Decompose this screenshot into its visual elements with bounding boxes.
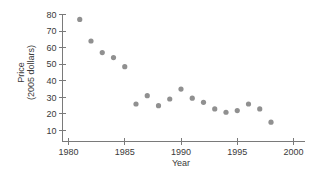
- y-axis-title-line1: Price: [16, 62, 26, 83]
- data-points-layer: [77, 17, 273, 125]
- data-point: [156, 103, 161, 108]
- x-tick-label: 1990: [171, 147, 191, 157]
- data-point: [201, 100, 206, 105]
- x-tick-label: 1995: [227, 147, 247, 157]
- data-point: [235, 108, 240, 113]
- x-tick-label: 2000: [283, 147, 303, 157]
- data-point: [111, 55, 116, 60]
- data-point: [167, 96, 172, 101]
- y-tick-label: 60: [46, 43, 56, 53]
- x-axis-title: Year: [172, 158, 190, 168]
- data-point: [133, 101, 138, 106]
- y-tick-label: 50: [46, 59, 56, 69]
- data-point: [178, 86, 183, 91]
- data-point: [88, 38, 93, 43]
- scatter-chart-figure: 1020304050607080 19801985199019952000 Ye…: [0, 0, 318, 170]
- data-point: [257, 106, 262, 111]
- y-axis: 1020304050607080: [46, 10, 66, 142]
- data-point: [145, 93, 150, 98]
- data-point: [268, 120, 273, 125]
- data-point: [190, 96, 195, 101]
- y-tick-label: 20: [46, 109, 56, 119]
- y-tick-label: 80: [46, 10, 56, 20]
- x-tick-label: 1980: [58, 147, 78, 157]
- y-tick-label: 30: [46, 93, 56, 103]
- y-tick-label: 40: [46, 76, 56, 86]
- chart-canvas: 1020304050607080 19801985199019952000 Ye…: [0, 0, 318, 170]
- x-tick-label: 1985: [115, 147, 135, 157]
- y-tick-label: 10: [46, 126, 56, 136]
- data-point: [122, 64, 127, 69]
- data-point: [212, 106, 217, 111]
- data-point: [100, 50, 105, 55]
- y-axis-title-line2: (2005 dollars): [26, 45, 36, 100]
- data-point: [223, 110, 228, 115]
- data-point: [77, 17, 82, 22]
- data-point: [246, 101, 251, 106]
- y-tick-label: 70: [46, 26, 56, 36]
- x-axis: 19801985199019952000: [58, 138, 305, 157]
- axis-titles-layer: YearPrice(2005 dollars): [16, 45, 190, 168]
